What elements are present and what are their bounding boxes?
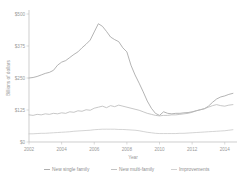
y-axis-tick-labels: $0$125$250$375$500 [15, 12, 26, 145]
y-tick-label: $500 [15, 12, 26, 17]
y-tick-label: $250 [15, 76, 26, 81]
series-line-1 [29, 105, 233, 116]
chart-legend: New single familyNew multi-familyImprove… [44, 167, 210, 172]
x-tick-label: 2012 [187, 147, 198, 152]
series-line-2 [29, 129, 233, 134]
x-axis-tick-marks [29, 142, 225, 145]
x-tick-label: 2006 [89, 147, 100, 152]
y-tick-label: $375 [15, 44, 26, 49]
y-tick-label: $0 [20, 140, 26, 145]
x-tick-label: 2014 [220, 147, 231, 152]
chart-canvas: $0$125$250$375$500 200220042006200820102… [0, 0, 241, 183]
x-tick-label: 2002 [24, 147, 35, 152]
x-axis-tick-labels: 2002200420062008201020122014 [24, 147, 230, 152]
x-tick-label: 2008 [122, 147, 133, 152]
x-tick-label: 2004 [57, 147, 68, 152]
data-series-group [29, 24, 233, 134]
legend-label-1: New multi-family [119, 167, 155, 172]
y-tick-label: $125 [15, 108, 26, 113]
legend-label-2: Improvements [179, 167, 210, 172]
x-axis-title: Year [128, 155, 138, 160]
legend-label-0: New single family [52, 167, 90, 172]
line-chart: $0$125$250$375$500 200220042006200820102… [0, 0, 241, 183]
x-tick-label: 2010 [154, 147, 165, 152]
y-axis-title: Billions of dollars [6, 59, 11, 96]
series-line-0 [29, 24, 233, 116]
